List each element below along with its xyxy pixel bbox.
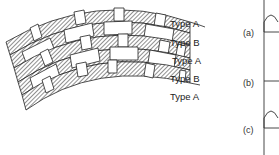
arch-diagram: [0, 0, 279, 155]
course-label-5: Type A: [170, 92, 199, 102]
detail-label-c: (c): [243, 126, 254, 135]
detail-label-b: (b): [243, 79, 254, 88]
course-label-3: Type A: [172, 56, 201, 66]
detail-figures: [264, 0, 279, 155]
detail-a-arch: [264, 15, 278, 32]
course-label-4: Type B: [170, 74, 200, 84]
course-label-1: Type A: [170, 19, 199, 29]
detail-c-arch: [264, 111, 278, 128]
course-label-2: Type B: [170, 38, 200, 48]
detail-label-a: (a): [243, 29, 254, 38]
